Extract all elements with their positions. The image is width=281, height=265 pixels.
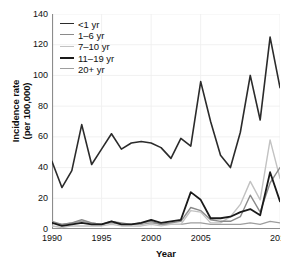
y-tick-label: 100 [22,71,48,80]
y-tick-label: 60 [22,132,48,141]
legend-label-1: 1–6 yr [78,30,104,41]
x-tick-label: 2013 [263,233,281,243]
legend-label-0: <1 yr [78,19,99,30]
x-tick-label: 1990 [35,233,69,243]
incidence-rate-line-chart: Incidence rate (per 100,000) 02040608010… [0,0,281,265]
x-tick-label: 2005 [184,233,218,243]
x-axis-title: Year [52,248,280,259]
x-tick-label: 2000 [134,233,168,243]
x-tick-label: 1995 [85,233,119,243]
y-tick-label: 20 [22,194,48,203]
y-tick-label: 40 [22,163,48,172]
series-line-11-19-yr [52,172,280,226]
y-tick-label: 140 [22,10,48,19]
legend-swatch-0 [60,23,74,24]
legend-label-4: 20+ yr [78,64,105,75]
y-axis-tick-labels: 020406080100120140 [18,0,48,265]
legend-swatch-3 [60,57,74,59]
legend-swatch-2 [60,46,74,47]
series-line-1-6-yr [52,168,280,225]
y-tick-label: 80 [22,102,48,111]
legend-label-2: 7–10 yr [78,41,110,52]
y-tick-label: 120 [22,40,48,49]
legend-swatch-4 [60,68,74,69]
legend-swatch-1 [60,34,74,35]
legend-label-3: 11–19 yr [78,53,114,64]
